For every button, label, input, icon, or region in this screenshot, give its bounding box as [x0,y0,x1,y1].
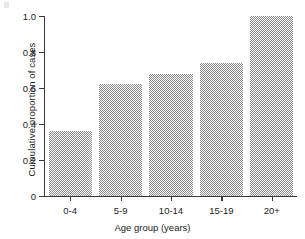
x-axis-tick [272,196,273,201]
plot-area: 00.20.40.60.81.0 0-45-910-1415-1920+ [45,16,297,196]
x-axis-tick [221,196,222,201]
x-axis-title: Age group (years) [0,222,305,233]
y-axis-tick-label: 0.6 [23,83,36,94]
x-axis-tick-label: 20+ [264,205,280,216]
y-axis-tick-label: 1.0 [23,11,36,22]
x-axis-tick-label: 5-9 [114,205,128,216]
x-axis-tick [171,196,172,201]
bar-5-9 [99,84,142,196]
y-axis-tick-label: 0.8 [23,47,36,58]
y-axis-tick-label: 0.4 [23,119,36,130]
bar-15-19 [200,63,243,196]
x-axis-tick-label: 0-4 [63,205,77,216]
y-axis-tick-label: 0.2 [23,155,36,166]
x-axis-tick [121,196,122,201]
bar-0-4 [49,131,92,196]
y-axis-tick [39,196,45,197]
x-axis-tick [70,196,71,201]
x-axis-tick-label: 15-19 [209,205,233,216]
bar-20+ [250,16,293,196]
bar-10-14 [149,74,192,196]
bar-series [45,16,297,196]
scan-artifact [4,2,9,8]
bar-chart: Cumulative proportion of cases 00.20.40.… [0,0,305,239]
x-axis-tick-label: 10-14 [159,205,183,216]
y-axis-tick-label: 0 [31,191,36,202]
